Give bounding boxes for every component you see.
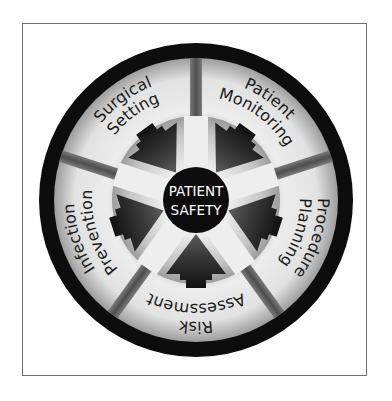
patient-safety-wheel: PATIENT SAFETY Patient Monitoring Proced… bbox=[0, 0, 392, 401]
svg-text:Risk: Risk bbox=[177, 317, 214, 337]
center-circle bbox=[163, 167, 229, 233]
label-line1: Risk bbox=[177, 317, 214, 337]
divider bbox=[190, 58, 202, 118]
center-label-line2: SAFETY bbox=[171, 202, 223, 218]
center-label-line1: PATIENT bbox=[169, 183, 224, 199]
